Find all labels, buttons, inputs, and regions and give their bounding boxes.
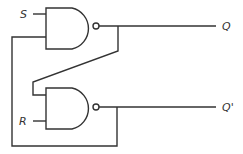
bottom-nand-gate (46, 88, 88, 129)
top-nand-bubble (93, 23, 99, 29)
top-nand-gate (46, 8, 88, 49)
sr-latch-diagram (0, 0, 243, 154)
q-label: Q (222, 21, 231, 32)
r-label: R (19, 116, 27, 127)
s-label: S (20, 9, 27, 20)
q-bar-label: Q' (222, 102, 234, 113)
bottom-nand-bubble (93, 104, 99, 110)
